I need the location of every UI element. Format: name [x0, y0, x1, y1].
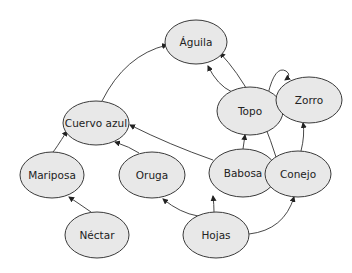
node-conejo: Conejo [265, 151, 331, 197]
node-label: Águila [180, 36, 213, 48]
edge-nectar-to-mariposa [69, 197, 91, 212]
edge-hojas-to-babosa [213, 196, 214, 212]
edge-hojas-to-oruga [163, 199, 198, 216]
edge-conejo-to-zorro [301, 123, 304, 151]
node-hojas: Hojas [183, 212, 249, 258]
node-label: Cuervo azul [65, 117, 127, 129]
node-label: Topo [237, 105, 262, 117]
node-label: Conejo [280, 168, 316, 180]
node-label: Hojas [201, 229, 230, 241]
nodes-layer: ÁguilaCuervo azulTopoZorroMariposaOrugaB… [20, 20, 342, 258]
edge-oruga-to-cuervo [115, 142, 139, 153]
node-topo: Topo [217, 87, 283, 135]
node-oruga: Oruga [119, 152, 185, 198]
node-cuervo: Cuervo azul [63, 101, 129, 145]
node-zorro: Zorro [276, 77, 342, 123]
edge-cuervo-to-aguila [102, 45, 167, 101]
edge-mariposa-to-cuervo [53, 131, 67, 152]
node-aguila: Águila [165, 20, 227, 64]
edge-babosa-to-topo [243, 135, 245, 149]
node-label: Babosa [224, 167, 263, 179]
node-nectar: Néctar [65, 212, 129, 258]
node-label: Oruga [136, 169, 168, 181]
node-label: Néctar [80, 229, 116, 241]
node-label: Mariposa [28, 169, 76, 181]
food-web-diagram: ÁguilaCuervo azulTopoZorroMariposaOrugaB… [0, 0, 352, 273]
edge-topo-to-aguila [208, 66, 232, 92]
node-label: Zorro [295, 94, 323, 106]
node-mariposa: Mariposa [20, 152, 84, 198]
edge-hojas-to-conejo [249, 197, 294, 234]
